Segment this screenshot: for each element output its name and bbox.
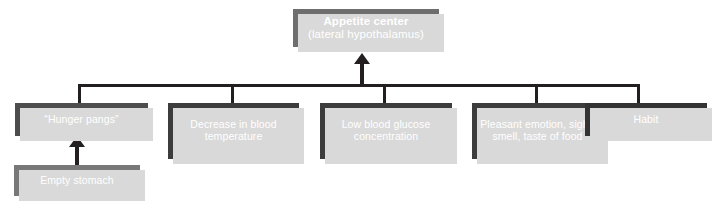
bracket-drop-line-4 bbox=[535, 84, 538, 103]
cause-box-label: Decrease in blood temperature bbox=[168, 119, 299, 143]
cause-box-blood-temperature: Decrease in blood temperature bbox=[168, 103, 299, 159]
diagram-canvas: Appetite center (lateral hypothalamus) “… bbox=[0, 0, 721, 207]
arrow-up-icon-to-appetite-center bbox=[354, 53, 370, 64]
cause-box-hunger-pangs: “Hunger pangs” bbox=[15, 103, 148, 136]
bracket-drop-line-1 bbox=[78, 84, 81, 103]
cause-box-habit: Habit bbox=[585, 103, 707, 136]
bracket-drop-line-2 bbox=[231, 84, 234, 103]
bracket-drop-line-3 bbox=[383, 84, 386, 103]
cause-box-label: Habit bbox=[629, 114, 662, 126]
cause-box-pleasant-emotion: Pleasant emotion, sight, smell, taste of… bbox=[472, 103, 603, 159]
appetite-center-label: Appetite center (lateral hypothalamus) bbox=[304, 15, 428, 41]
cause-box-label: “Hunger pangs” bbox=[40, 114, 122, 126]
bracket-drop-line-5 bbox=[637, 84, 640, 103]
empty-stomach-box: Empty stomach bbox=[14, 165, 140, 196]
appetite-center-title: Appetite center bbox=[308, 15, 424, 28]
arrow-stem-to-hunger-pangs bbox=[75, 144, 79, 166]
appetite-center-box: Appetite center (lateral hypothalamus) bbox=[293, 9, 439, 47]
cause-box-blood-glucose: Low blood glucose concentration bbox=[320, 103, 452, 159]
arrow-stem-to-appetite-center bbox=[360, 61, 364, 86]
bracket-horizontal-line bbox=[78, 84, 640, 87]
empty-stomach-label: Empty stomach bbox=[36, 175, 118, 187]
cause-box-label: Low blood glucose concentration bbox=[320, 119, 452, 143]
appetite-center-subtitle: (lateral hypothalamus) bbox=[308, 28, 424, 41]
cause-box-label: Pleasant emotion, sight, smell, taste of… bbox=[472, 119, 603, 143]
